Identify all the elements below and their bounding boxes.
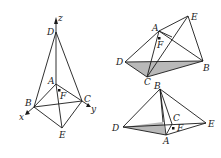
label-D: D bbox=[115, 57, 123, 67]
label-B: B bbox=[24, 98, 32, 108]
bottom-right-fold-figure: B C D E F A bbox=[111, 81, 215, 146]
label-E: E bbox=[207, 119, 215, 129]
label-x: x bbox=[19, 112, 24, 122]
geometry-figures: z D A F B C x y E A E F D B C bbox=[0, 0, 221, 158]
label-B: B bbox=[153, 81, 161, 91]
label-F: F bbox=[59, 91, 67, 101]
label-z: z bbox=[57, 13, 63, 23]
label-A: A bbox=[151, 23, 159, 33]
label-A: A bbox=[162, 136, 170, 146]
label-C: C bbox=[144, 77, 151, 87]
right-angle-marker-icon bbox=[172, 127, 175, 130]
label-F: F bbox=[176, 123, 184, 133]
label-B: B bbox=[202, 63, 210, 73]
label-F: F bbox=[156, 40, 164, 50]
label-D: D bbox=[46, 27, 54, 37]
label-D: D bbox=[111, 123, 119, 133]
shaded-face-DCB bbox=[125, 61, 203, 77]
label-A: A bbox=[47, 76, 55, 86]
top-right-fold-figure: A E F D B C bbox=[115, 12, 210, 87]
label-E: E bbox=[58, 130, 66, 140]
label-C: C bbox=[84, 94, 91, 104]
left-pyramid-figure: z D A F B C x y E bbox=[19, 13, 97, 140]
label-E: E bbox=[190, 12, 198, 22]
label-y: y bbox=[90, 104, 97, 114]
label-C: C bbox=[173, 113, 180, 123]
